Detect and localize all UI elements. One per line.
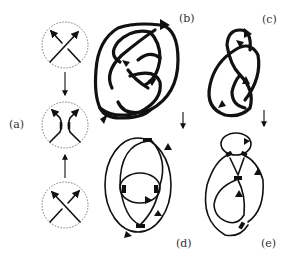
label-a: (a) (9, 118, 24, 131)
panel-c: (c) (209, 13, 277, 116)
knot-diagram-figure: (a) (b) (c) (0, 0, 285, 257)
smoothing (42, 102, 88, 148)
panel-a: (a) (9, 22, 88, 228)
label-c: (c) (262, 13, 277, 26)
label-d: (d) (176, 237, 192, 250)
crossing-positive (42, 22, 88, 68)
panel-b: (b) (96, 12, 195, 124)
panel-d: (d) (105, 138, 192, 250)
label-e: (e) (261, 237, 276, 250)
label-b: (b) (179, 12, 195, 25)
crossing-negative (42, 182, 88, 228)
panel-e: (e) (205, 133, 276, 250)
